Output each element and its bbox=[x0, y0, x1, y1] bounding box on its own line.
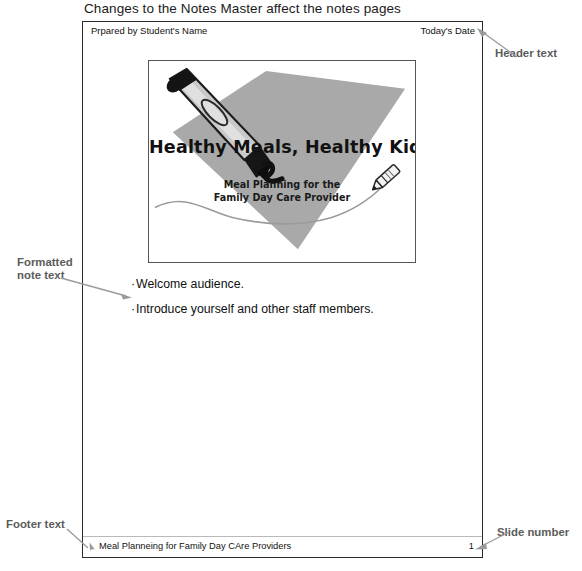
note-bullet: · bbox=[131, 277, 135, 291]
slide-subtitle: Meal Planning for the Family Day Care Pr… bbox=[149, 178, 415, 204]
notes-text-placeholder[interactable]: ·Welcome audience. ·Introduce yourself a… bbox=[131, 277, 461, 327]
callout-formatted-line-2: note text bbox=[17, 269, 73, 282]
footer-left-group[interactable]: Meal Planneing for Family Day CAre Provi… bbox=[89, 541, 291, 551]
figure-caption: Changes to the Notes Master affect the n… bbox=[84, 1, 401, 16]
note-bullet: · bbox=[131, 302, 135, 316]
slide-title: Healthy Meals, Healthy Kids bbox=[149, 137, 415, 157]
slide-subtitle-line-2: Family Day Care Provider bbox=[149, 191, 415, 204]
page-header-region[interactable]: Prpared by Student's Name Today's Date bbox=[83, 22, 482, 44]
callout-label-formatted-note-text: Formatted note text bbox=[17, 256, 73, 282]
callout-formatted-line-1: Formatted bbox=[17, 256, 73, 269]
callout-label-header-text: Header text bbox=[495, 47, 557, 60]
note-line: ·Welcome audience. bbox=[131, 277, 461, 291]
slide-thumbnail[interactable]: Healthy Meals, Healthy Kids Meal Plannin… bbox=[148, 60, 416, 263]
callout-label-footer-text: Footer text bbox=[6, 518, 65, 531]
footer-left-text: Meal Planneing for Family Day CAre Provi… bbox=[99, 541, 291, 551]
header-left-text[interactable]: Prpared by Student's Name bbox=[91, 25, 207, 36]
note-line-text: Welcome audience. bbox=[136, 277, 244, 291]
pointer-mark-icon bbox=[89, 542, 96, 551]
slide-number-text[interactable]: 1 bbox=[469, 541, 474, 551]
header-right-date[interactable]: Today's Date bbox=[420, 25, 475, 36]
note-line: ·Introduce yourself and other staff memb… bbox=[131, 302, 461, 316]
slide-subtitle-line-1: Meal Planning for the bbox=[149, 178, 415, 191]
page-footer-region[interactable]: Meal Planneing for Family Day CAre Provi… bbox=[83, 536, 482, 557]
notes-page: Prpared by Student's Name Today's Date bbox=[82, 21, 483, 558]
note-line-text: Introduce yourself and other staff membe… bbox=[136, 302, 374, 316]
slide-artwork bbox=[149, 61, 415, 262]
callout-label-slide-number: Slide number bbox=[497, 526, 569, 539]
